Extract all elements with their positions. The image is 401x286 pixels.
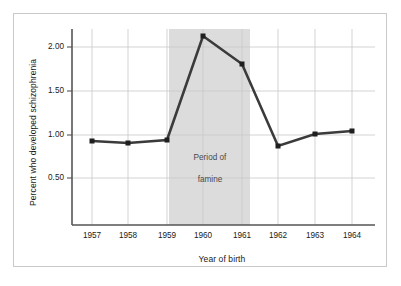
x-tick-label-1959: 1959 bbox=[147, 231, 187, 240]
y-tick-label-0.50: 0.50 bbox=[38, 173, 64, 182]
data-point-1962 bbox=[276, 144, 281, 149]
data-point-1961 bbox=[240, 62, 245, 67]
data-point-1963 bbox=[313, 132, 318, 137]
y-tick-label-2.00: 2.00 bbox=[38, 42, 64, 51]
x-tick-label-1958: 1958 bbox=[108, 231, 148, 240]
x-tick-label-1957: 1957 bbox=[72, 231, 112, 240]
chart-figure: 2.00 1.50 1.00 0.50 1957 1958 1959 1960 … bbox=[0, 0, 401, 286]
x-axis-title: Year of birth bbox=[122, 254, 322, 264]
famine-annotation-line1: Period of bbox=[175, 152, 245, 163]
data-point-1960 bbox=[201, 34, 206, 39]
x-tick-label-1961: 1961 bbox=[222, 231, 262, 240]
x-tick-label-1962: 1962 bbox=[258, 231, 298, 240]
data-point-1964 bbox=[350, 129, 355, 134]
y-tick-label-1.50: 1.50 bbox=[38, 86, 64, 95]
y-axis-title: Percent who developed schizophrenia bbox=[28, 66, 38, 206]
y-tick-label-1.00: 1.00 bbox=[38, 130, 64, 139]
famine-annotation: Period of famine bbox=[175, 141, 245, 196]
x-tick-label-1964: 1964 bbox=[332, 231, 372, 240]
x-tick-label-1963: 1963 bbox=[295, 231, 335, 240]
x-tick-label-1960: 1960 bbox=[183, 231, 223, 240]
data-point-1958 bbox=[126, 141, 131, 146]
data-point-1959 bbox=[165, 138, 170, 143]
data-point-1957 bbox=[90, 139, 95, 144]
famine-annotation-line2: famine bbox=[175, 174, 245, 185]
